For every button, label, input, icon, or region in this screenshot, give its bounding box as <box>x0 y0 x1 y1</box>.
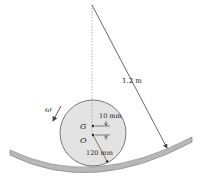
offset-label: 10 mm <box>99 112 122 120</box>
diagram-canvas: 1.2 m G O 10 mm 120 mm ω <box>0 0 205 184</box>
center-of-mass-label: G <box>80 122 87 131</box>
track-radius-label: 1.2 m <box>122 77 142 85</box>
disk-radius-label: 120 mm <box>86 149 113 157</box>
angular-velocity-arrow <box>53 106 61 121</box>
angular-velocity-label: ω <box>45 105 52 114</box>
geometric-center-label: O <box>80 136 87 145</box>
center-of-mass-point <box>92 125 94 127</box>
